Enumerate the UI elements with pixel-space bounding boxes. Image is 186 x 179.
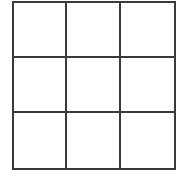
cell-2-1[interactable]	[67, 113, 120, 168]
cell-2-2[interactable]	[121, 113, 174, 168]
cell-1-2[interactable]	[121, 58, 174, 113]
cell-1-0[interactable]	[14, 58, 67, 113]
cell-0-1[interactable]	[67, 3, 120, 58]
game-board	[12, 1, 176, 170]
cell-0-2[interactable]	[121, 3, 174, 58]
cell-0-0[interactable]	[14, 3, 67, 58]
cell-1-1[interactable]	[67, 58, 120, 113]
cell-2-0[interactable]	[14, 113, 67, 168]
